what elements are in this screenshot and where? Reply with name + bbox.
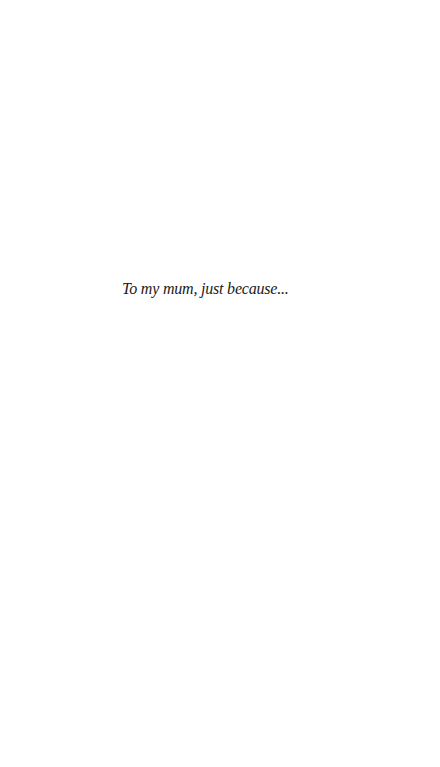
dedication-text: To my mum, just because... (122, 279, 289, 299)
book-page: To my mum, just because... (0, 0, 440, 767)
